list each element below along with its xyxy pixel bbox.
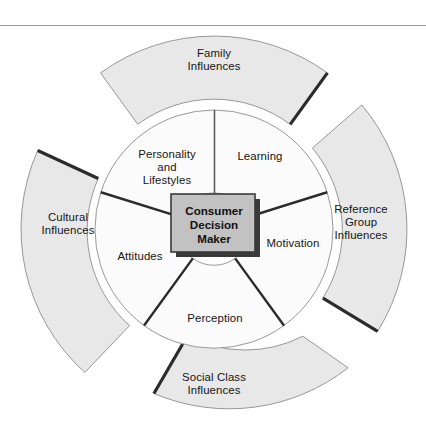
outer-label-social-class-influences: Social Class Influences xyxy=(157,371,271,397)
inner-label-personality-and-lifestyles: Personality and Lifestyles xyxy=(125,148,209,187)
outer-label-cultural-influences: Cultural Influences xyxy=(26,211,110,237)
outer-label-reference-group-influences: Reference Group Influences xyxy=(322,203,400,242)
inner-label-learning: Learning xyxy=(222,150,298,163)
inner-label-attitudes: Attitudes xyxy=(104,250,176,263)
inner-label-motivation: Motivation xyxy=(254,237,332,250)
inner-label-perception: Perception xyxy=(175,312,255,325)
influence-wheel-diagram: Family Influences Reference Group Influe… xyxy=(0,0,426,438)
center-label: Consumer Decision Maker xyxy=(172,197,256,253)
outer-label-family-influences: Family Influences xyxy=(164,47,264,73)
